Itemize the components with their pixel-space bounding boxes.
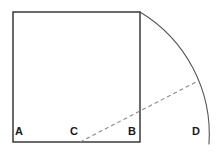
vertex-label-d: D xyxy=(192,126,200,137)
dashed-radius-segment xyxy=(80,81,198,142)
vertex-label-a: A xyxy=(15,126,23,137)
geometry-figure: A C B D xyxy=(0,0,220,155)
geometry-canvas xyxy=(0,0,220,155)
vertex-label-c: C xyxy=(70,126,78,137)
vertex-label-b: B xyxy=(128,126,136,137)
square-shape xyxy=(13,12,140,142)
